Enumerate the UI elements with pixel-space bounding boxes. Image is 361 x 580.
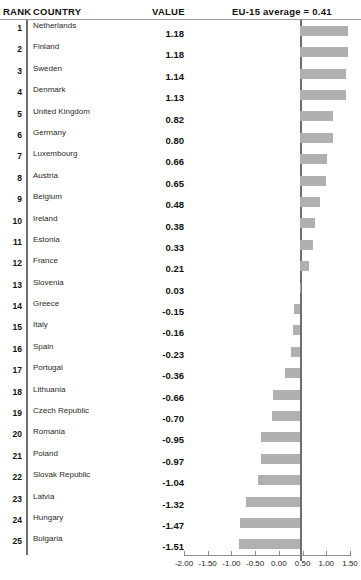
cell-value: 0.38 [140,221,184,232]
x-axis-tick [326,551,327,556]
x-axis: -2.00-1.50-1.00-0.500.000.501.001.50 [0,550,361,580]
header-rank: RANK [3,6,31,17]
x-axis-tick [279,551,280,556]
cell-value: 1.18 [140,49,184,60]
cell-country: France [33,256,58,265]
cell-rank: 22 [0,472,22,482]
x-axis-tick [303,551,304,556]
cell-rank: 11 [0,237,22,247]
cell-value: -0.97 [140,456,184,467]
cell-value: -1.32 [140,499,184,510]
table-row: 6Germany0.80 [0,127,361,148]
cell-value: 1.13 [140,92,184,103]
table-row: 3Sweden1.14 [0,63,361,84]
cell-country: Romania [33,427,65,436]
table-row: 9Belgium0.48 [0,191,361,212]
cell-rank: 24 [0,515,22,525]
cell-value: 0.21 [140,263,184,274]
cell-country: Italy [33,320,48,329]
cell-country: Estonia [33,235,60,244]
cell-value: -0.66 [140,392,184,403]
table-row: 23Latvia-1.32 [0,491,361,512]
cell-value: 0.33 [140,242,184,253]
x-axis-tick [350,551,351,556]
cell-rank: 20 [0,429,22,439]
cell-country: Slovenia [33,278,64,287]
cell-rank: 8 [0,173,22,183]
cell-country: Finland [33,42,59,51]
cell-value: 0.03 [140,285,184,296]
cell-rank: 18 [0,387,22,397]
cell-country: Austria [33,171,58,180]
table-body: 1Netherlands1.182Finland1.183Sweden1.144… [0,20,361,555]
cell-value: 1.18 [140,28,184,39]
cell-country: Portugal [33,363,63,372]
cell-rank: 17 [0,365,22,375]
cell-rank: 23 [0,494,22,504]
cell-country: Denmark [33,85,65,94]
table-row: 11Estonia0.33 [0,234,361,255]
cell-country: Luxembourg [33,149,77,158]
cell-value: 0.48 [140,199,184,210]
header-value: VALUE [152,6,185,17]
cell-value: -1.47 [140,520,184,531]
cell-rank: 25 [0,536,22,546]
cell-country: Germany [33,128,66,137]
cell-country: United Kingdom [33,107,90,116]
table-row: 10Ireland0.38 [0,213,361,234]
cell-country: Bulgaria [33,534,62,543]
cell-rank: 13 [0,280,22,290]
x-axis-tick [184,551,185,556]
x-axis-tick-label: 1.50 [330,559,361,568]
cell-rank: 16 [0,344,22,354]
cell-rank: 19 [0,408,22,418]
table-row: 7Luxembourg0.66 [0,148,361,169]
cell-rank: 10 [0,216,22,226]
cell-rank: 9 [0,194,22,204]
table-row: 13Slovenia0.03 [0,277,361,298]
cell-country: Poland [33,449,58,458]
cell-country: Latvia [33,492,54,501]
cell-country: Ireland [33,214,57,223]
table-header: RANK COUNTRY VALUE EU-15 average = 0.41 [0,4,361,20]
table-row: 24Hungary-1.47 [0,512,361,533]
cell-rank: 5 [0,109,22,119]
cell-country: Greece [33,299,59,308]
cell-value: -0.70 [140,413,184,424]
cell-value: -0.95 [140,434,184,445]
cell-country: Slovak Republic [33,470,90,479]
cell-country: Belgium [33,192,62,201]
cell-value: -0.36 [140,370,184,381]
header-eu15-average: EU-15 average = 0.41 [232,6,332,17]
cell-rank: 7 [0,151,22,161]
x-axis-tick [231,551,232,556]
cell-country: Hungary [33,513,63,522]
cell-value: 1.14 [140,71,184,82]
table-row: 22Slovak Republic-1.04 [0,469,361,490]
table-row: 19Czech Republic-0.70 [0,405,361,426]
cell-country: Netherlands [33,21,76,30]
cell-value: 0.82 [140,114,184,125]
cell-rank: 6 [0,130,22,140]
cell-rank: 1 [0,23,22,33]
x-axis-tick [255,551,256,556]
cell-rank: 15 [0,322,22,332]
cell-value: 0.65 [140,178,184,189]
cell-value: -0.16 [140,327,184,338]
table-row: 17Portugal-0.36 [0,362,361,383]
table-row: 21Poland-0.97 [0,448,361,469]
cell-value: -0.23 [140,349,184,360]
cell-country: Czech Republic [33,406,89,415]
cell-country: Lithuania [33,385,65,394]
x-axis-tick [208,551,209,556]
cell-value: -0.15 [140,306,184,317]
table-row: 15Italy-0.16 [0,319,361,340]
cell-value: 0.66 [140,156,184,167]
x-axis-line [184,555,350,556]
ranking-chart: RANK COUNTRY VALUE EU-15 average = 0.41 … [0,0,361,580]
cell-rank: 2 [0,44,22,54]
header-country: COUNTRY [33,6,81,17]
cell-rank: 12 [0,258,22,268]
table-row: 8Austria0.65 [0,170,361,191]
table-row: 18Lithuania-0.66 [0,384,361,405]
